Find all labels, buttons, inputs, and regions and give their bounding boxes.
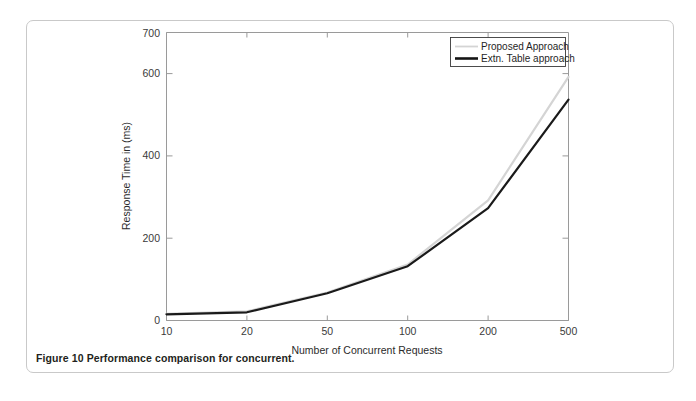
figure-caption-label: Figure 10 bbox=[36, 352, 84, 364]
figure-caption: Figure 10 Performance comparison for con… bbox=[36, 352, 295, 364]
figure-frame bbox=[26, 20, 674, 373]
figure-caption-text: Performance comparison for concurrent. bbox=[87, 352, 295, 364]
